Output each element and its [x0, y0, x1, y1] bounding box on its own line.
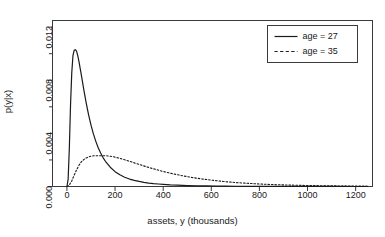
y-axis-title: p(y|x)	[2, 82, 13, 122]
legend-label-age-27: age = 27	[303, 31, 338, 41]
x-axis-title: assets, y (thousands)	[0, 215, 385, 226]
x-tick-label-1000: 1000	[298, 190, 318, 200]
x-tick-label-0: 0	[64, 190, 69, 200]
y-tick-label-0.012: 0.012	[44, 26, 54, 49]
chart-figure: assets, y (thousands) p(y|x) 02004006008…	[0, 0, 385, 237]
x-tick-label-600: 600	[204, 190, 219, 200]
y-tick-label-0.000: 0.000	[44, 186, 54, 209]
y-tick-label-0.008: 0.008	[44, 79, 54, 102]
x-tick-label-400: 400	[156, 190, 171, 200]
legend-label-age-35: age = 35	[303, 46, 338, 56]
x-tick-label-200: 200	[108, 190, 123, 200]
x-tick-label-800: 800	[252, 190, 267, 200]
x-tick-label-1200: 1200	[346, 190, 366, 200]
y-tick-label-0.004: 0.004	[44, 132, 54, 155]
